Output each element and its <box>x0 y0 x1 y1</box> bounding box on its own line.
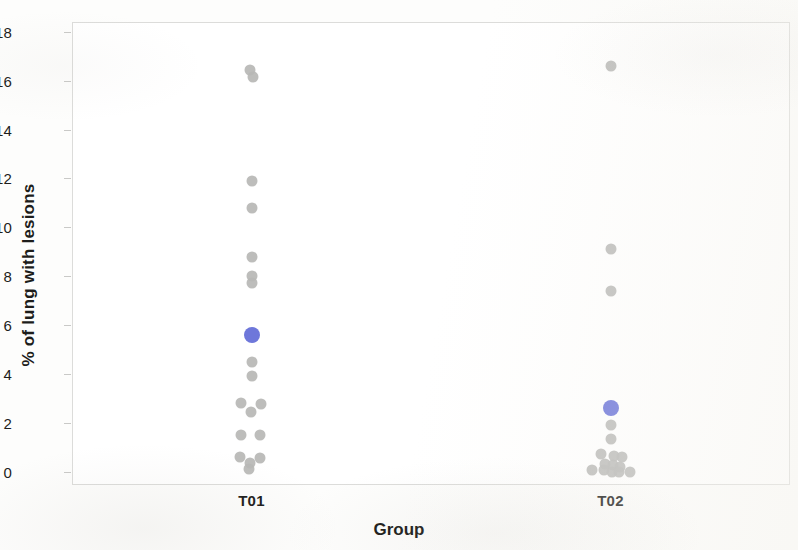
data-point <box>254 453 265 464</box>
data-point <box>246 202 257 213</box>
y-tick-mark <box>64 472 71 473</box>
data-point <box>605 285 616 296</box>
x-tick-label-t01: T01 <box>238 492 265 509</box>
y-tick-label: 6 <box>0 316 12 333</box>
dot-plot-chart: % of lung with lesions Group 02468101214… <box>0 0 798 550</box>
y-tick-label: 12 <box>0 170 12 187</box>
y-tick-mark <box>64 32 71 33</box>
data-point <box>245 406 256 417</box>
data-point <box>247 71 258 82</box>
plot-area <box>72 22 790 485</box>
data-point <box>605 60 616 71</box>
data-point <box>246 278 257 289</box>
y-tick-mark <box>64 325 71 326</box>
y-tick-mark <box>64 374 71 375</box>
data-point <box>605 420 616 431</box>
y-tick-mark <box>64 81 71 82</box>
data-point <box>243 464 254 475</box>
y-tick-mark <box>64 227 71 228</box>
data-point <box>254 429 265 440</box>
data-point <box>255 399 266 410</box>
y-tick-mark <box>64 178 71 179</box>
data-point <box>235 429 246 440</box>
data-point <box>246 356 257 367</box>
data-point <box>246 371 257 382</box>
mean-marker <box>603 400 619 416</box>
data-point <box>613 466 624 477</box>
data-point <box>246 251 257 262</box>
y-tick-mark <box>64 130 71 131</box>
data-point <box>605 244 616 255</box>
y-tick-label: 18 <box>0 23 12 40</box>
y-tick-label: 14 <box>0 121 12 138</box>
y-tick-label: 4 <box>0 365 12 382</box>
y-tick-mark <box>64 423 71 424</box>
y-axis-title: % of lung with lesions <box>19 110 39 440</box>
y-tick-label: 16 <box>0 72 12 89</box>
data-point <box>235 398 246 409</box>
x-axis-title: Group <box>0 520 798 540</box>
y-tick-label: 10 <box>0 219 12 236</box>
y-tick-label: 2 <box>0 414 12 431</box>
x-tick-label-t02: T02 <box>597 492 624 509</box>
y-tick-mark <box>64 276 71 277</box>
data-point <box>624 466 635 477</box>
data-point <box>605 433 616 444</box>
y-tick-label: 8 <box>0 268 12 285</box>
y-tick-label: 0 <box>0 463 12 480</box>
data-point <box>586 465 597 476</box>
mean-marker <box>244 327 260 343</box>
data-point <box>246 175 257 186</box>
